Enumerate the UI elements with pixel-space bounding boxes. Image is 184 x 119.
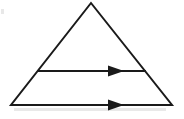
scan-artifact-base-smudge xyxy=(14,108,166,111)
triangle-arrows-diagram: Triangle with two horizontal arrows xyxy=(0,0,184,119)
scan-artifact-left-speck xyxy=(1,9,4,14)
figure-background xyxy=(0,0,184,119)
figure-canvas: Triangle with two horizontal arrows xyxy=(0,0,184,119)
